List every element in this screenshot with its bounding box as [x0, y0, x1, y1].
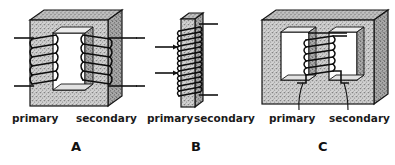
panel-a-primary-label: primary — [12, 112, 58, 124]
panel-b-letter: B — [191, 139, 201, 154]
transformer-core-types-figure: primary secondary A — [0, 0, 395, 165]
panel-b-secondary-label: secondary — [194, 112, 255, 124]
figure-canvas: primary secondary A — [0, 0, 395, 165]
panel-c-secondary-label: secondary — [329, 112, 390, 124]
panel-b-diagram: primary secondary B — [136, 13, 255, 154]
panel-a-diagram: primary secondary A — [12, 10, 137, 154]
panel-b-primary-label: primary — [147, 112, 193, 124]
panel-c-letter: C — [318, 139, 328, 154]
panel-a-core — [30, 10, 122, 106]
panel-a-secondary-label: secondary — [76, 112, 137, 124]
panel-c-core — [262, 10, 388, 104]
panel-c-diagram: primary secondary C — [262, 10, 390, 154]
panel-c-primary-label: primary — [269, 112, 315, 124]
panel-a-letter: A — [71, 139, 81, 154]
